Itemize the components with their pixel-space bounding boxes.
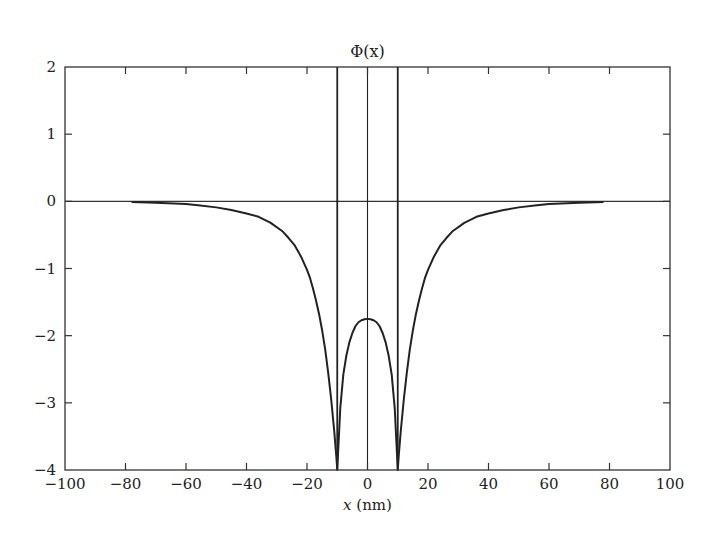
x-tick-label: 80 <box>600 475 619 493</box>
y-tick-label: 1 <box>46 125 56 143</box>
chart-canvas: Φ(x) −100−80−60−40−20020406080100 210−1−… <box>0 0 718 543</box>
x-tick-label: 0 <box>363 475 373 493</box>
x-tick-label: −60 <box>170 475 202 493</box>
x-tick-label: 20 <box>418 475 437 493</box>
x-tick-label: 60 <box>539 475 558 493</box>
y-tick-label: −2 <box>34 327 56 345</box>
x-tick-label: 40 <box>479 475 498 493</box>
x-tick-label: 100 <box>656 475 685 493</box>
y-tick-label: −3 <box>34 394 56 412</box>
y-tick-label: −4 <box>34 461 56 479</box>
x-tick-label: −20 <box>291 475 323 493</box>
y-tick-label: 2 <box>46 58 56 76</box>
y-tick-label: 0 <box>46 192 56 210</box>
x-tick-label: −80 <box>110 475 142 493</box>
x-tick-label: −40 <box>231 475 263 493</box>
chart-title: Φ(x) <box>350 42 385 61</box>
x-axis-label: x (nm) <box>343 496 392 514</box>
y-tick-label: −1 <box>34 260 56 278</box>
